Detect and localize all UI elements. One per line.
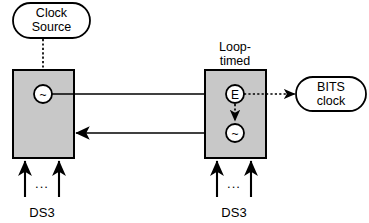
right-block-caption-line2: timed — [220, 54, 251, 68]
bits-clock-node[interactable]: BITS clock — [296, 77, 366, 111]
left-block-shape — [13, 70, 74, 158]
left-ds3-label: DS3 — [29, 205, 54, 220]
bits-clock-label-line2: clock — [317, 94, 346, 108]
left-ds3-inputs: ... DS3 — [25, 161, 59, 220]
clock-source-label-line1: Clock — [36, 6, 68, 20]
clock-extract-symbol: E — [231, 88, 239, 102]
diagram-root: Clock Source ~ Loop- timed E ~ — [0, 0, 369, 223]
right-ds3-inputs: ... DS3 — [217, 161, 251, 220]
clock-source-node[interactable]: Clock Source — [13, 3, 90, 38]
clock-source-label-line2: Source — [32, 20, 72, 34]
left-block-node[interactable]: ~ — [13, 70, 74, 158]
right-ds3-label: DS3 — [221, 205, 246, 220]
right-ds3-ellipsis: ... — [227, 176, 241, 191]
right-block-caption-line1: Loop- — [219, 40, 251, 54]
right-oscillator-symbol: ~ — [231, 127, 238, 141]
timing-diagram-canvas: Clock Source ~ Loop- timed E ~ — [0, 0, 369, 223]
left-ds3-ellipsis: ... — [35, 176, 49, 191]
right-block-caption: Loop- timed — [219, 40, 251, 68]
left-oscillator-symbol: ~ — [39, 88, 46, 102]
bits-clock-label-line1: BITS — [317, 80, 345, 94]
